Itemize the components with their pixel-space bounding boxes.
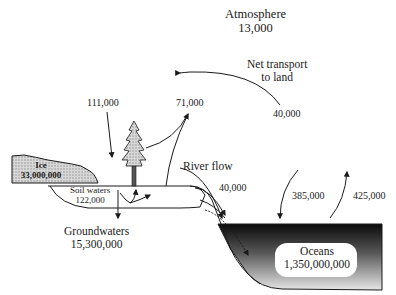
net-transport-line2: to land — [247, 71, 307, 84]
atmosphere-name: Atmosphere — [225, 7, 286, 21]
river-flow-label: River flow — [183, 160, 233, 173]
soil-waters-name: Soil waters — [70, 185, 110, 195]
transpiration-arrow — [146, 114, 188, 148]
evap-ocean-arrow — [330, 172, 347, 218]
river-flow-value: 40,000 — [219, 182, 247, 194]
atmosphere-label: Atmosphere 13,000 — [225, 7, 286, 36]
groundwaters-name: Groundwaters — [64, 225, 129, 238]
precip-ocean-value: 385,000 — [292, 190, 325, 202]
atmosphere-value: 13,000 — [225, 21, 286, 35]
soil-waters-label: Soil waters 122,000 — [70, 185, 110, 206]
evaporation-land-arrow — [166, 114, 188, 186]
precip-land-arrow — [107, 112, 112, 157]
groundwaters-label: Groundwaters 15,300,000 — [64, 225, 129, 251]
precip-land-value: 111,000 — [87, 97, 119, 109]
net-transport-line1: Net transport — [247, 58, 307, 71]
oceans-name: Oceans — [277, 245, 357, 258]
groundwaters-value: 15,300,000 — [64, 238, 129, 251]
ice-label: Ice 33,000,000 — [13, 160, 69, 181]
water-cycle-diagram: Atmosphere 13,000 Net transport to land … — [0, 0, 396, 295]
oceans-value: 1,350,000,000 — [277, 258, 357, 271]
net-transport-label: Net transport to land — [247, 58, 307, 84]
evapotranspiration-value: 71,000 — [176, 97, 204, 109]
ice-value: 33,000,000 — [13, 170, 69, 180]
oceans-label: Oceans 1,350,000,000 — [277, 245, 357, 271]
soil-waters-value: 122,000 — [70, 195, 110, 205]
land-slab — [10, 186, 386, 208]
ice-name: Ice — [13, 160, 69, 170]
tree-icon — [122, 121, 146, 186]
evap-ocean-value: 425,000 — [353, 190, 386, 202]
net-transport-value: 40,000 — [273, 108, 301, 120]
